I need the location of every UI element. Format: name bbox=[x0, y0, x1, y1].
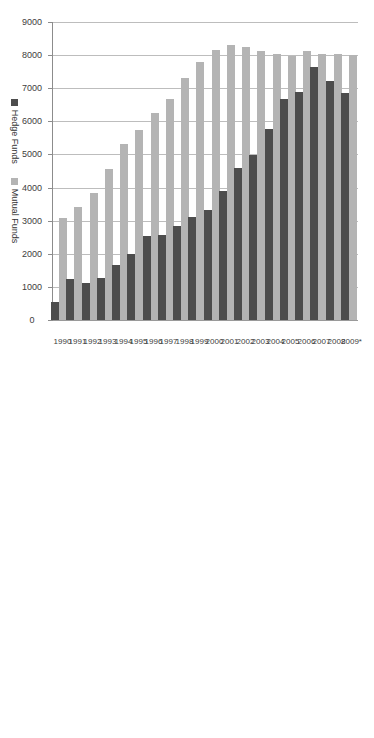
bar-hedge-funds bbox=[173, 226, 181, 320]
legend-item[interactable]: Mutual Funds bbox=[10, 178, 20, 244]
bar-hedge-funds bbox=[112, 265, 120, 320]
legend-label: Hedge Funds bbox=[10, 110, 20, 164]
plot-area bbox=[53, 22, 358, 320]
bar-hedge-funds bbox=[219, 191, 227, 320]
chart-stage: 0100020003000400050006000700080009000 19… bbox=[0, 0, 374, 738]
bar-group bbox=[68, 22, 83, 320]
bar-hedge-funds bbox=[295, 92, 303, 320]
bar-group bbox=[84, 22, 99, 320]
bar-hedge-funds bbox=[341, 93, 349, 320]
bar-hedge-funds bbox=[280, 99, 288, 320]
bar-chart: 0100020003000400050006000700080009000 19… bbox=[0, 0, 374, 738]
bar-hedge-funds bbox=[204, 210, 212, 320]
legend-swatch-icon bbox=[12, 99, 19, 106]
bar-hedge-funds bbox=[143, 236, 151, 320]
bar-hedge-funds bbox=[97, 278, 105, 320]
bar-hedge-funds bbox=[326, 81, 334, 320]
chart-legend: Hedge FundsMutual Funds bbox=[8, 22, 22, 320]
bar-hedge-funds bbox=[311, 67, 319, 320]
bar-hedge-funds bbox=[128, 254, 136, 320]
bar-mutual-funds bbox=[349, 55, 357, 320]
bar-hedge-funds bbox=[51, 302, 59, 320]
legend-item[interactable]: Hedge Funds bbox=[10, 99, 20, 164]
bar-hedge-funds bbox=[234, 168, 242, 320]
category-axis-line bbox=[53, 320, 358, 321]
bar-hedge-funds bbox=[67, 279, 75, 320]
bar-hedge-funds bbox=[265, 129, 273, 320]
bar-hedge-funds bbox=[82, 283, 90, 320]
bar-group bbox=[343, 22, 358, 320]
bar-hedge-funds bbox=[158, 235, 166, 320]
legend-label: Mutual Funds bbox=[10, 189, 20, 244]
bar-hedge-funds bbox=[189, 217, 197, 320]
bar-group bbox=[53, 22, 68, 320]
legend-swatch-icon bbox=[12, 178, 19, 185]
category-label: 2009* bbox=[335, 337, 369, 346]
bar-hedge-funds bbox=[250, 155, 258, 320]
